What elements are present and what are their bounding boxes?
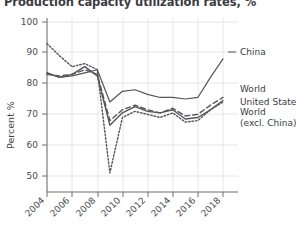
legend-item-world-excl-china-sub: (excl. China) bbox=[240, 118, 296, 128]
y-tick-label: 100 bbox=[21, 17, 38, 27]
legend-item-china: China bbox=[240, 47, 266, 57]
x-tick-label: 2004 bbox=[23, 195, 46, 218]
legend-item-united-states: United States bbox=[240, 97, 296, 107]
chart-legend: China World United States World (excl. C… bbox=[240, 47, 296, 128]
horizontal-gridlines bbox=[47, 22, 238, 176]
series-line-world bbox=[47, 70, 223, 121]
series-line-china bbox=[47, 59, 223, 102]
legend-item-world: World bbox=[240, 84, 266, 94]
x-tick-label: 2008 bbox=[74, 195, 97, 218]
y-tick-label: 60 bbox=[27, 140, 39, 150]
y-tick-label: 80 bbox=[27, 78, 39, 88]
x-tick-label: 2006 bbox=[48, 195, 71, 218]
y-tick-label: 90 bbox=[27, 47, 39, 57]
x-tick-label: 2010 bbox=[99, 195, 122, 218]
x-axis-ticks bbox=[47, 192, 223, 197]
x-tick-label: 2016 bbox=[174, 195, 197, 218]
y-axis-ticks bbox=[42, 22, 47, 176]
legend-item-world-excl-china: World bbox=[240, 107, 266, 117]
y-axis-title: Percent % bbox=[5, 101, 16, 149]
x-tick-label: 2012 bbox=[124, 195, 147, 218]
y-tick-label: 70 bbox=[27, 109, 39, 119]
series-line-world-excl-china bbox=[47, 44, 223, 173]
x-tick-label: 2014 bbox=[149, 195, 172, 218]
y-axis-tick-labels: 100 90 80 70 60 50 bbox=[21, 17, 38, 181]
chart-svg: 100 90 80 70 60 50 Percent % 2004 2006 2… bbox=[0, 0, 296, 234]
y-tick-label: 50 bbox=[27, 171, 39, 181]
chart-container: Production capacity utilization rates, % bbox=[0, 0, 296, 234]
x-axis-tick-labels: 2004 2006 2008 2010 2012 2014 2016 2018 bbox=[23, 195, 222, 218]
series-lines bbox=[47, 44, 223, 173]
x-tick-label: 2018 bbox=[199, 195, 222, 218]
